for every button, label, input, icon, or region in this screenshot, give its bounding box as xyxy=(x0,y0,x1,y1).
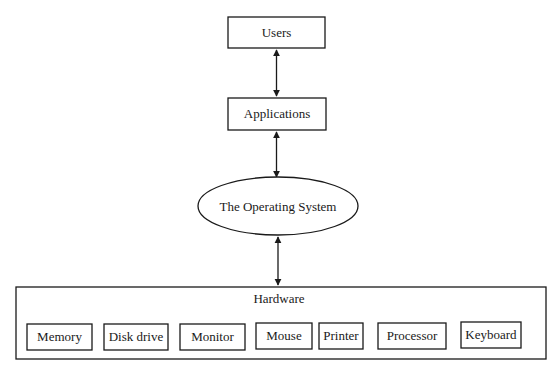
monitor-label: Monitor xyxy=(191,329,234,344)
users-label: Users xyxy=(262,25,292,40)
memory-label: Memory xyxy=(37,329,82,344)
users-node: Users xyxy=(228,17,325,48)
hardware-component-mouse: Mouse xyxy=(256,323,312,349)
hardware-component-printer: Printer xyxy=(319,323,363,349)
disk-drive-label: Disk drive xyxy=(109,329,164,344)
hardware-component-disk-drive: Disk drive xyxy=(104,324,168,350)
hardware-component-monitor: Monitor xyxy=(180,324,245,350)
hardware-component-memory: Memory xyxy=(27,324,92,350)
processor-label: Processor xyxy=(387,328,438,343)
hardware-component-processor: Processor xyxy=(378,323,446,349)
keyboard-label: Keyboard xyxy=(465,327,517,342)
mouse-label: Mouse xyxy=(266,328,302,343)
operating-system-label: The Operating System xyxy=(220,199,337,214)
os-layer-diagram: Users Applications The Operating System … xyxy=(0,0,556,374)
hardware-label: Hardware xyxy=(253,291,304,306)
applications-node: Applications xyxy=(228,98,326,130)
hardware-component-keyboard: Keyboard xyxy=(461,322,521,348)
applications-label: Applications xyxy=(244,106,310,121)
printer-label: Printer xyxy=(323,328,359,343)
operating-system-node: The Operating System xyxy=(198,177,358,235)
hardware-node: Hardware Memory Disk drive Monitor Mouse… xyxy=(16,287,546,359)
